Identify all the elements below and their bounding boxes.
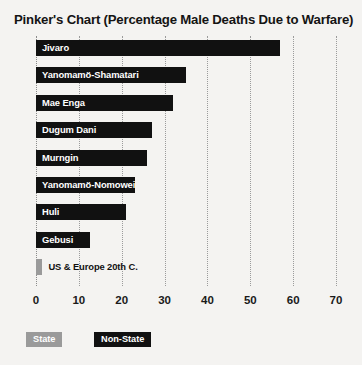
x-tick-label-40: 40	[201, 294, 214, 306]
x-tick-label-30: 30	[158, 294, 171, 306]
bar-row[interactable]: US & Europe 20th C.	[36, 259, 336, 275]
bar-label: Jivaro	[42, 40, 69, 56]
x-tick-label-70: 70	[330, 294, 343, 306]
x-tick-label-60: 60	[287, 294, 300, 306]
x-tick-label-50: 50	[244, 294, 257, 306]
bar-series: JivaroYanomamö-ShamatariMae EngaDugum Da…	[36, 36, 336, 286]
plot-area: JivaroYanomamö-ShamatariMae EngaDugum Da…	[36, 36, 336, 286]
bar-row[interactable]: Huli	[36, 204, 336, 220]
chart-title: Pinker's Chart (Percentage Male Deaths D…	[14, 12, 354, 27]
legend-item-state[interactable]: State	[26, 332, 62, 347]
bar-label: Gebusi	[42, 232, 73, 248]
bar-row[interactable]: Mae Enga	[36, 95, 336, 111]
x-tick-label-20: 20	[115, 294, 128, 306]
bar-row[interactable]: Yanomamö-Nomowei	[36, 177, 336, 193]
legend-item-non-state[interactable]: Non-State	[94, 332, 151, 347]
bar-row[interactable]: Jivaro	[36, 40, 336, 56]
chart-page: Pinker's Chart (Percentage Male Deaths D…	[0, 0, 362, 365]
bar-row[interactable]: Dugum Dani	[36, 122, 336, 138]
bar-label: Yanomamö-Shamatari	[42, 67, 139, 83]
bar-row[interactable]: Yanomamö-Shamatari	[36, 67, 336, 83]
x-tick-label-0: 0	[33, 294, 39, 306]
bar-label: Mae Enga	[42, 95, 85, 111]
x-axis: 010203040506070	[36, 288, 336, 314]
bar-non-state[interactable]	[36, 40, 280, 56]
bar-state[interactable]	[36, 259, 42, 275]
bar-label: Yanomamö-Nomowei	[42, 177, 135, 193]
bar-label: Dugum Dani	[42, 122, 96, 138]
bar-label: US & Europe 20th C.	[48, 259, 137, 275]
bar-label: Huli	[42, 204, 59, 220]
bar-row[interactable]: Murngin	[36, 150, 336, 166]
x-tick-label-10: 10	[72, 294, 85, 306]
bar-label: Murngin	[42, 150, 78, 166]
gridline-70	[336, 36, 338, 286]
bar-row[interactable]: Gebusi	[36, 232, 336, 248]
